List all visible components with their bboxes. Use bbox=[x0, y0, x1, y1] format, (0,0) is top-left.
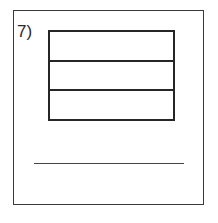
fraction-part-2 bbox=[50, 62, 173, 92]
fraction-rectangle bbox=[48, 30, 175, 121]
problem-number: 7) bbox=[17, 22, 32, 42]
fraction-part-1 bbox=[50, 32, 173, 62]
fraction-part-3 bbox=[50, 91, 173, 119]
answer-line[interactable] bbox=[34, 163, 184, 164]
